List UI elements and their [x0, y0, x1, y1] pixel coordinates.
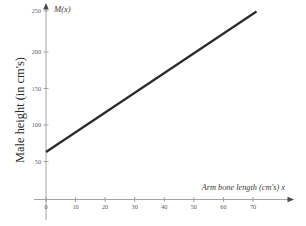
- y-tick-label-250: 250: [32, 7, 41, 14]
- x-tick-label-0: 0: [44, 203, 47, 210]
- line-chart-svg: 250 200 150 100 50 0 10 20 30 40 50 60 7…: [0, 0, 306, 226]
- y-tick-label-100: 100: [32, 121, 41, 128]
- x-tick-label-20: 20: [102, 203, 108, 210]
- y-tick-label-50: 50: [35, 158, 41, 165]
- y-axis-title: Male height (in cm's): [13, 57, 27, 163]
- function-label-mx: M(x): [53, 4, 71, 14]
- chart-plot-area: 250 200 150 100 50 0 10 20 30 40 50 60 7…: [0, 0, 306, 226]
- x-tick-label-60: 60: [220, 203, 226, 210]
- y-tick-label-150: 150: [32, 85, 41, 92]
- x-tick-label-70: 70: [250, 203, 256, 210]
- y-tick-label-200: 200: [32, 48, 41, 55]
- x-tick-label-30: 30: [132, 203, 138, 210]
- x-tick-label-40: 40: [161, 203, 167, 210]
- x-tick-label-10: 10: [73, 203, 79, 210]
- x-axis-title: Arm bone length (cm's) x: [201, 183, 286, 192]
- x-tick-label-50: 50: [191, 203, 197, 210]
